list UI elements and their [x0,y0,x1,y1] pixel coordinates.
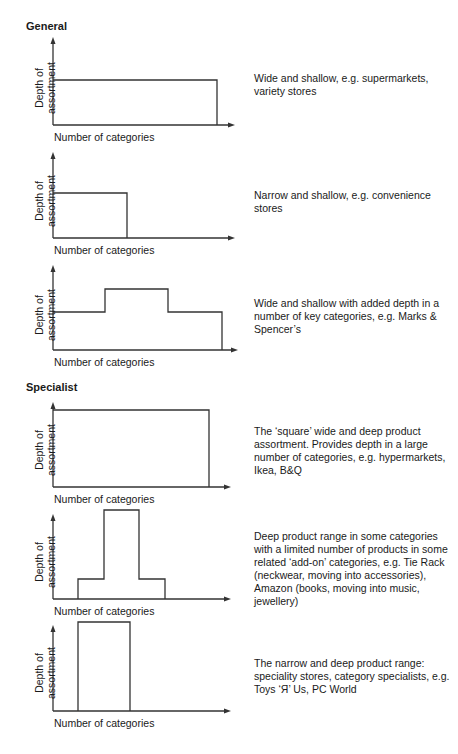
panel-description: The narrow and deep product range: speci… [254,657,454,696]
x-axis-label: Number of categories [54,717,154,729]
y-axis-arrow-icon [51,625,56,632]
y-axis-label: Depth of assortment [33,638,57,708]
chart-narrow-deep [0,0,458,754]
x-axis-arrow-icon [224,709,231,714]
